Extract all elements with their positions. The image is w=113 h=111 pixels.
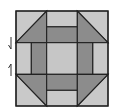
quilt-block-diagram [0,0,113,111]
light-strip [47,90,78,106]
light-strip [16,43,31,75]
cell-r1c0 [16,43,47,75]
dark-strip [77,43,92,75]
cell-r1c2 [77,43,108,75]
dark-strip [47,27,78,43]
light-strip [47,11,78,27]
cell-r1c1 [47,43,78,75]
block-cells [16,11,108,106]
cell-r2c2 [77,74,108,106]
dark-strip [47,74,78,90]
cell-r2c1 [47,74,78,106]
center-square [47,43,78,75]
cell-r2c0 [16,74,47,106]
cell-r0c0 [16,11,47,43]
seam-markers [9,37,12,76]
light-strip [93,43,108,75]
churn-dash-block [0,0,113,111]
cell-r0c1 [47,11,78,43]
dark-strip [31,43,46,75]
seam-marker-down-icon [9,37,12,49]
seam-marker-up-icon [9,64,12,76]
cell-r0c2 [77,11,108,43]
